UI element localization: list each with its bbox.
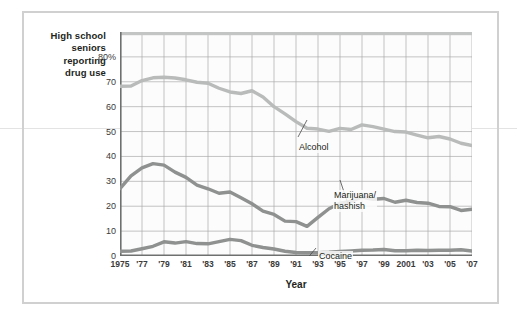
x-tick-label-1987: '87: [246, 259, 257, 269]
x-tick-label-1985: '85: [224, 259, 235, 269]
x-tick-label-2003: '03: [422, 259, 433, 269]
x-tick-label-2001: 2001: [397, 259, 416, 269]
x-tick-label-1993: '93: [312, 259, 323, 269]
y-tick-label-10: 10: [82, 226, 116, 236]
x-tick-label-1975: 1975: [111, 259, 130, 269]
figure-root: High school seniors reporting drug use 0…: [0, 0, 517, 321]
x-tick-label-1997: '97: [356, 259, 367, 269]
annotation-marijuana-line-2: hashish: [334, 201, 376, 212]
y-tick-label-80: 80%: [82, 52, 116, 62]
x-tick-label-1989: '89: [268, 259, 279, 269]
x-tick-label-1977: '77: [136, 259, 147, 269]
x-axis-title: Year: [120, 279, 472, 290]
annotation-marijuana-line-1: Marijuana/: [334, 190, 376, 201]
y-axis-tick-labels: 01020304050607080%: [82, 32, 116, 256]
plot-area: Alcohol Marijuana/ hashish Cocaine: [120, 32, 472, 256]
y-tick-label-40: 40: [82, 151, 116, 161]
plot-canvas: [120, 32, 472, 256]
chart-svg: [120, 32, 472, 256]
x-tick-label-1999: '99: [378, 259, 389, 269]
x-tick-label-2005: '05: [444, 259, 455, 269]
annotation-marijuana: Marijuana/ hashish: [333, 190, 377, 212]
x-tick-label-1981: '81: [180, 259, 191, 269]
x-tick-label-1991: '91: [290, 259, 301, 269]
x-axis-tick-labels: 1975'77'79'81'83'85'87'89'91'93'95'97'99…: [120, 259, 472, 273]
y-tick-label-20: 20: [82, 201, 116, 211]
x-tick-label-1983: '83: [202, 259, 213, 269]
y-tick-label-50: 50: [82, 127, 116, 137]
y-tick-label-60: 60: [82, 102, 116, 112]
y-tick-label-30: 30: [82, 176, 116, 186]
annotation-alcohol: Alcohol: [298, 142, 330, 153]
x-tick-label-1995: '95: [334, 259, 345, 269]
x-tick-label-2007: '07: [466, 259, 477, 269]
x-tick-label-1979: '79: [158, 259, 169, 269]
y-tick-label-70: 70: [82, 77, 116, 87]
